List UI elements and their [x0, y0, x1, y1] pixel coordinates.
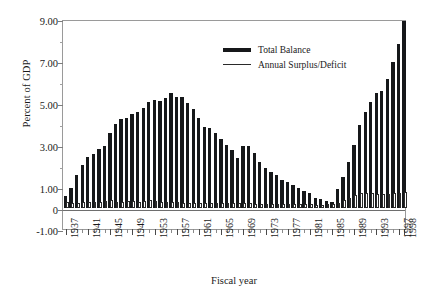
x-tick-label: 1965	[224, 218, 235, 238]
bar-annual-surplus-deficit	[343, 200, 346, 208]
bar-total-balance	[103, 146, 106, 208]
bar-group	[147, 19, 151, 229]
bar-total-balance	[269, 172, 272, 208]
bar-group	[92, 19, 96, 229]
y-tick-label: 0	[53, 205, 58, 216]
bar-annual-surplus-deficit	[277, 204, 280, 208]
x-minor-tick	[127, 229, 128, 233]
bar-annual-surplus-deficit	[204, 203, 207, 208]
x-minor-tick	[149, 229, 150, 233]
bar-annual-surplus-deficit	[338, 203, 341, 208]
bar-total-balance	[236, 158, 239, 208]
x-minor-tick	[304, 229, 305, 233]
bar-total-balance	[264, 168, 267, 208]
x-tick-label: 1998	[407, 218, 418, 238]
bar-annual-surplus-deficit	[327, 204, 330, 208]
x-tick-label: 1973	[269, 218, 280, 238]
bar-group	[175, 19, 179, 229]
bar-annual-surplus-deficit	[94, 202, 97, 208]
bar-total-balance	[169, 93, 172, 209]
bar-total-balance	[380, 91, 383, 208]
bar-total-balance	[386, 79, 389, 208]
bar-group	[358, 19, 362, 229]
bar-group	[375, 19, 379, 229]
x-major-tick	[66, 229, 67, 235]
legend-item-total-balance: Total Balance	[223, 43, 346, 56]
bar-group	[130, 19, 134, 229]
bar-group	[208, 19, 212, 229]
bar-annual-surplus-deficit	[293, 204, 296, 208]
bar-annual-surplus-deficit	[105, 201, 108, 208]
x-major-tick	[288, 229, 289, 235]
x-major-tick	[243, 229, 244, 235]
bar-annual-surplus-deficit	[282, 204, 285, 208]
bar-group	[347, 19, 351, 229]
x-tick-label: 1993	[379, 218, 390, 238]
bar-total-balance	[402, 21, 405, 208]
legend-swatch-total-balance	[223, 48, 251, 52]
bar-group	[214, 19, 218, 229]
bar-annual-surplus-deficit	[238, 203, 241, 208]
x-major-tick	[110, 229, 111, 235]
bar-annual-surplus-deficit	[88, 202, 91, 208]
bar-annual-surplus-deficit	[382, 194, 385, 208]
x-major-tick	[332, 229, 333, 235]
bar-total-balance	[119, 119, 122, 208]
bar-annual-surplus-deficit	[321, 205, 324, 208]
bar-annual-surplus-deficit	[371, 193, 374, 208]
x-major-tick	[177, 229, 178, 235]
bar-total-balance	[92, 154, 95, 208]
bar-annual-surplus-deficit	[393, 193, 396, 208]
bar-annual-surplus-deficit	[299, 204, 302, 208]
x-minor-tick	[371, 229, 372, 233]
bar-annual-surplus-deficit	[404, 192, 407, 208]
legend-swatch-annual-surplus-deficit	[223, 64, 251, 65]
bar-annual-surplus-deficit	[82, 202, 85, 208]
x-tick-label: 1961	[202, 218, 213, 238]
y-tick-label: 9.00	[40, 16, 58, 27]
y-tick-label: -1.00	[36, 226, 58, 237]
legend-item-annual-surplus-deficit: Annual Surplus/Deficit	[223, 58, 346, 71]
x-minor-tick	[82, 229, 83, 233]
x-minor-tick	[349, 229, 350, 233]
bar-annual-surplus-deficit	[99, 202, 102, 208]
bar-annual-surplus-deficit	[110, 200, 113, 208]
x-tick-label: 1945	[113, 218, 124, 238]
bar-annual-surplus-deficit	[310, 204, 313, 208]
bar-annual-surplus-deficit	[71, 203, 74, 208]
bar-total-balance	[275, 175, 278, 208]
x-axis-title: Fiscal year	[62, 275, 406, 286]
bar-group	[192, 19, 196, 229]
bar-group	[397, 19, 401, 229]
x-major-tick	[221, 229, 222, 235]
bar-annual-surplus-deficit	[232, 203, 235, 208]
bar-group	[119, 19, 123, 229]
y-axis-title: Percent of GDP	[21, 24, 32, 164]
bar-total-balance	[108, 133, 111, 208]
bar-group	[352, 19, 356, 229]
bar-group	[86, 19, 90, 229]
bar-annual-surplus-deficit	[143, 201, 146, 208]
bar-annual-surplus-deficit	[188, 203, 191, 208]
legend-label-annual-surplus-deficit: Annual Surplus/Deficit	[258, 60, 346, 70]
bar-annual-surplus-deficit	[271, 204, 274, 208]
bar-total-balance	[203, 127, 206, 208]
bar-annual-surplus-deficit	[260, 204, 263, 208]
bar-total-balance	[142, 108, 145, 208]
bar-annual-surplus-deficit	[315, 205, 318, 208]
bar-total-balance	[186, 103, 189, 208]
bar-annual-surplus-deficit	[304, 204, 307, 208]
chart-figure: Percent of GDP 9.007.005.003.001.000-1.0…	[0, 0, 422, 292]
x-minor-tick	[105, 229, 106, 233]
bar-annual-surplus-deficit	[116, 202, 119, 208]
bar-annual-surplus-deficit	[266, 204, 269, 208]
x-minor-tick	[171, 229, 172, 233]
x-major-tick	[354, 229, 355, 235]
x-tick-label: 1989	[357, 218, 368, 238]
bar-annual-surplus-deficit	[149, 200, 152, 208]
bar-annual-surplus-deficit	[193, 203, 196, 208]
x-minor-tick	[282, 229, 283, 233]
x-minor-tick	[393, 229, 394, 233]
bar-annual-surplus-deficit	[288, 204, 291, 208]
bar-total-balance	[158, 101, 161, 208]
